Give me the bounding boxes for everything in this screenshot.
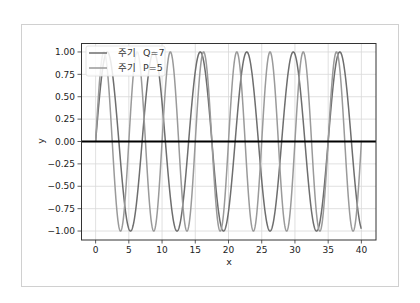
figure: 0510152025303540 1.000.750.500.250.00−0.…: [0, 0, 420, 303]
y-tick-label: −1.00: [47, 226, 75, 236]
y-tick-label: −0.75: [47, 204, 75, 214]
y-tick-label: 0.75: [55, 70, 75, 80]
x-tick-label: 35: [322, 245, 333, 255]
legend-label: Q=7: [143, 47, 164, 58]
x-tick-label: 20: [223, 245, 235, 255]
y-tick-label: −0.25: [47, 159, 75, 169]
x-tick-label: 10: [156, 245, 168, 255]
x-axis-label: x: [226, 256, 232, 267]
x-tick-label: 5: [126, 245, 132, 255]
x-tick-label: 0: [93, 245, 99, 255]
y-tick-label: −0.50: [47, 181, 75, 191]
legend-prefix: 주기: [118, 47, 136, 58]
legend-prefix: 주기: [118, 62, 136, 73]
y-tick-label: 0.00: [55, 137, 75, 147]
legend: 주기 Q=7 주기 P=5: [86, 46, 165, 76]
y-axis-label: y: [35, 138, 46, 144]
legend-label: P=5: [143, 62, 163, 73]
x-tick-label: 15: [190, 245, 201, 255]
x-tick-label: 25: [256, 245, 267, 255]
y-tick-label: 0.25: [55, 114, 75, 124]
y-tick-label: 0.50: [55, 92, 75, 102]
y-tick-label: 1.00: [55, 47, 75, 57]
x-tick-label: 30: [289, 245, 301, 255]
x-tick-label: 40: [356, 245, 368, 255]
